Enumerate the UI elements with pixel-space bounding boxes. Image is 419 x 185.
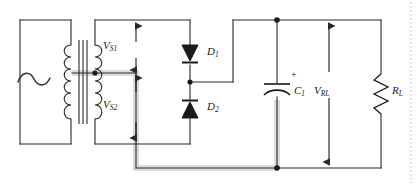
output-bottom-node [274,165,280,171]
diode-d1-icon [182,45,198,63]
circuit-diagram: VS1 VS2 D1 D2 + C1 VRL RL [0,0,419,185]
schematic-svg [0,0,419,185]
capacitor-polarity-plus: + [291,70,297,80]
label-d2: D2 [207,101,219,112]
label-c1: C1 [294,85,305,96]
diode-midpoint-node [187,79,192,84]
label-vs1: VS1 [103,40,117,51]
output-top-node [274,17,280,23]
diode-d2-icon [182,101,198,119]
center-tap-node [92,70,97,75]
label-d1: D1 [207,46,219,57]
transformer-icon [64,40,102,124]
transformer-primary-winding [64,45,71,119]
label-vrl: VRL [314,85,330,96]
label-rl: RL [392,85,403,96]
label-vs2: VS2 [103,99,117,110]
transformer-secondary-winding [95,45,102,119]
cap-plate-negative [264,90,290,95]
highlighted-return-path [72,73,277,168]
resistor-rl-icon [374,74,388,114]
capacitor-c1-icon [264,84,290,95]
ac-source-icon [18,73,50,85]
